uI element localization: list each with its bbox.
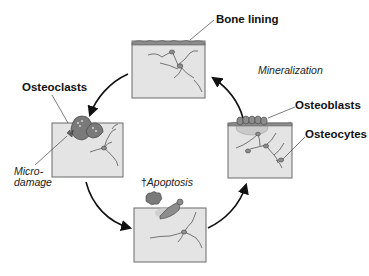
arrow-bottom-to-right bbox=[208, 185, 246, 228]
arrow-top-to-left bbox=[90, 74, 128, 115]
stage-box-resorption bbox=[52, 116, 123, 177]
label-apoptosis: †Apoptosis bbox=[141, 177, 193, 188]
label-osteoclasts: Osteoclasts bbox=[22, 81, 87, 93]
osteoblast-cells bbox=[237, 116, 267, 125]
arrow-left-to-bottom bbox=[86, 182, 130, 228]
arrow-right-to-top bbox=[213, 78, 243, 118]
stage-box-reversal bbox=[134, 192, 206, 263]
label-microdamage-line2: damage bbox=[14, 177, 52, 188]
stage-box-resting bbox=[132, 41, 205, 99]
stage-box-formation bbox=[228, 116, 292, 178]
apoptotic-osteoclast bbox=[146, 192, 162, 205]
label-apoptosis-text: Apoptosis bbox=[147, 176, 193, 188]
label-microdamage: Micro- damage bbox=[14, 166, 52, 188]
label-osteoblasts: Osteoblasts bbox=[295, 99, 361, 111]
label-osteocytes: Osteocytes bbox=[305, 128, 367, 140]
label-mineralization: Mineralization bbox=[258, 65, 323, 76]
label-bone-lining: Bone lining bbox=[216, 13, 279, 25]
